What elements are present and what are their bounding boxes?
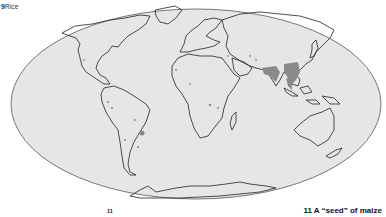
page-marker: 11	[107, 208, 113, 214]
next-figure-caption: 11 A “seed” of maize	[303, 206, 382, 215]
world-map	[0, 0, 386, 217]
map-ellipse	[11, 9, 381, 199]
